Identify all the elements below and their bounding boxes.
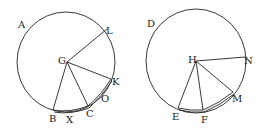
label-x: X (66, 114, 74, 125)
label-c: C (86, 108, 94, 119)
label-k: K (112, 76, 120, 87)
radius-hm (196, 61, 233, 92)
label-b: B (49, 113, 56, 124)
label-g: G (58, 55, 66, 66)
label-m: M (232, 93, 242, 104)
label-o: O (101, 93, 109, 104)
radius-gb (53, 62, 67, 110)
diagram-canvas: A L G K O C X B D H N M F E (0, 0, 269, 130)
label-e: E (172, 111, 179, 122)
label-n: N (244, 55, 253, 66)
label-f: F (201, 114, 208, 125)
chord-ef (178, 108, 203, 110)
label-a: A (17, 19, 26, 30)
label-d: D (147, 18, 155, 29)
radius-hn (196, 57, 245, 61)
radius-he (178, 61, 196, 108)
label-h: H (188, 54, 197, 65)
radius-hf (196, 61, 203, 110)
geometry-figure: A L G K O C X B D H N M F E (0, 0, 269, 130)
chord-fm-2 (204, 94, 234, 112)
label-l: L (106, 25, 113, 36)
radius-gl (67, 29, 107, 62)
